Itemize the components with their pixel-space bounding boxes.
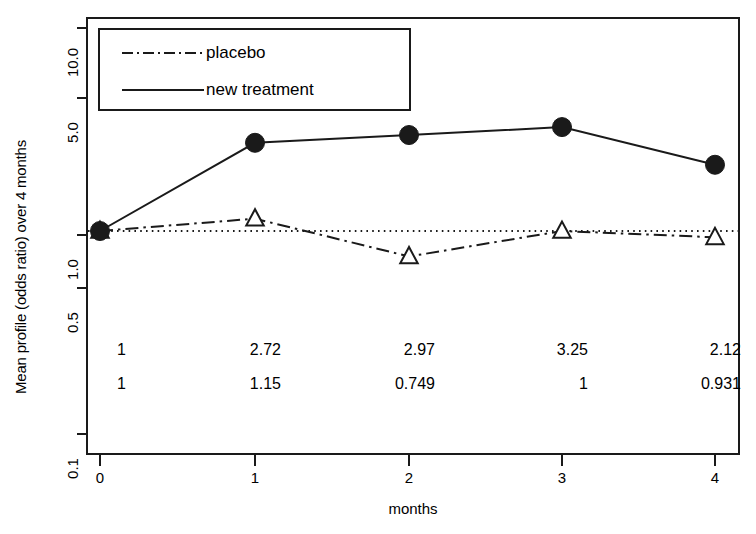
value-label-new-treatment-values: 2.97 [404, 341, 435, 359]
value-label-placebo-values: 1 [579, 375, 588, 393]
legend-key-placebo-dashdot-icon [120, 43, 206, 63]
value-label-new-treatment-values: 3.25 [557, 341, 588, 359]
value-label-new-treatment-values: 1 [117, 341, 126, 359]
value-label-placebo-values: 1 [117, 375, 126, 393]
marker-filled-circle [91, 222, 110, 241]
marker-filled-circle [246, 133, 265, 152]
legend-label-new-treatment: new treatment [206, 80, 314, 100]
legend-key-new-treatment-solid-icon [120, 80, 206, 100]
value-label-new-treatment-values: 2.12 [710, 341, 741, 359]
marker-filled-circle [706, 155, 725, 174]
legend-entry-new-treatment: new treatment [100, 73, 409, 107]
marker-open-triangle [246, 209, 263, 225]
legend-label-placebo: placebo [206, 43, 266, 63]
value-label-placebo-values: 1.15 [250, 375, 281, 393]
value-label-new-treatment-values: 2.72 [250, 341, 281, 359]
marker-open-triangle [553, 222, 570, 238]
legend-entry-placebo: placebo [100, 36, 409, 70]
value-label-placebo-values: 0.749 [395, 375, 435, 393]
value-label-placebo-values: 0.931 [701, 375, 741, 393]
chart-figure: Mean profile (odds ratio) over 4 months … [0, 0, 756, 534]
legend-box: placebo new treatment [98, 28, 411, 111]
marker-filled-circle [553, 118, 572, 137]
marker-filled-circle [400, 126, 419, 145]
